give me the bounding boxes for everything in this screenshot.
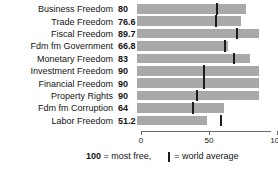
most-free-number: 100	[86, 151, 101, 161]
row-category-label: Labor Freedom	[0, 116, 113, 126]
most-free-note: 100 = most free,	[86, 151, 151, 162]
row-value-label: 66.8	[113, 41, 137, 51]
row-category-label: Property Rights	[0, 91, 113, 101]
row-plot-area	[137, 115, 273, 127]
freedom-index-chart: Business Freedom80Trade Freedom76.6Fisca…	[0, 0, 278, 175]
axis-tick-label: 50	[205, 136, 214, 145]
axis-tick	[141, 131, 142, 135]
world-average-marker	[233, 53, 235, 65]
chart-row: Property Rights90	[0, 90, 278, 102]
chart-row: Trade Freedom76.6	[0, 15, 278, 27]
world-average-marker	[203, 77, 205, 89]
chart-footer-legend: 100 = most free, = world average	[0, 151, 278, 162]
row-plot-area	[137, 102, 273, 114]
chart-row: Fdm fm Government66.8	[0, 40, 278, 52]
value-bar	[137, 116, 207, 126]
value-bar	[137, 103, 224, 113]
world-average-legend-label: = world average	[174, 151, 238, 162]
world-average-marker	[192, 102, 194, 114]
chart-row: Fiscal Freedom89.7	[0, 28, 278, 40]
row-plot-area	[137, 40, 273, 52]
value-bar	[137, 29, 259, 39]
row-plot-area	[137, 65, 273, 77]
row-category-label: Investment Freedom	[0, 66, 113, 76]
world-average-marker	[236, 28, 238, 40]
chart-row: Monetary Freedom83	[0, 53, 278, 65]
axis-tick-label: 0	[139, 136, 143, 145]
axis-tick	[277, 131, 278, 135]
row-value-label: 90	[113, 79, 137, 89]
row-value-label: 51.2	[113, 116, 137, 126]
row-value-label: 80	[113, 4, 137, 14]
row-value-label: 90	[113, 66, 137, 76]
value-bar	[137, 66, 259, 76]
value-bar	[137, 16, 241, 26]
world-average-marker	[220, 115, 222, 127]
row-plot-area	[137, 77, 273, 89]
row-category-label: Monetary Freedom	[0, 54, 113, 64]
row-value-label: 76.6	[113, 17, 137, 27]
value-bar	[137, 91, 259, 101]
x-axis: 050100	[141, 131, 271, 132]
world-average-marker-icon	[168, 152, 170, 162]
row-category-label: Business Freedom	[0, 4, 113, 14]
world-average-marker	[215, 15, 217, 27]
world-average-marker	[203, 65, 205, 77]
row-category-label: Fdm fm Government	[0, 41, 113, 51]
row-value-label: 83	[113, 54, 137, 64]
row-category-label: Trade Freedom	[0, 17, 113, 27]
row-value-label: 90	[113, 91, 137, 101]
row-plot-area	[137, 3, 273, 15]
chart-row: Investment Freedom90	[0, 65, 278, 77]
chart-row: Financial Freedom90	[0, 77, 278, 89]
most-free-text: = most free,	[101, 151, 151, 161]
world-average-marker	[216, 3, 218, 15]
value-bar	[137, 78, 259, 88]
row-plot-area	[137, 28, 273, 40]
value-bar	[137, 4, 246, 14]
chart-row: Labor Freedom51.2	[0, 115, 278, 127]
chart-row: Business Freedom80	[0, 3, 278, 15]
world-average-marker	[196, 90, 198, 102]
chart-row: Fdm fm Corruption64	[0, 102, 278, 114]
chart-rows: Business Freedom80Trade Freedom76.6Fisca…	[0, 3, 278, 127]
row-plot-area	[137, 90, 273, 102]
axis-tick-label: 100	[270, 136, 278, 145]
row-category-label: Financial Freedom	[0, 79, 113, 89]
world-average-marker	[224, 40, 226, 52]
row-value-label: 64	[113, 103, 137, 113]
row-plot-area	[137, 53, 273, 65]
row-category-label: Fiscal Freedom	[0, 29, 113, 39]
row-category-label: Fdm fm Corruption	[0, 103, 113, 113]
value-bar	[137, 41, 228, 51]
row-plot-area	[137, 15, 273, 27]
axis-tick	[209, 131, 210, 135]
row-value-label: 89.7	[113, 29, 137, 39]
